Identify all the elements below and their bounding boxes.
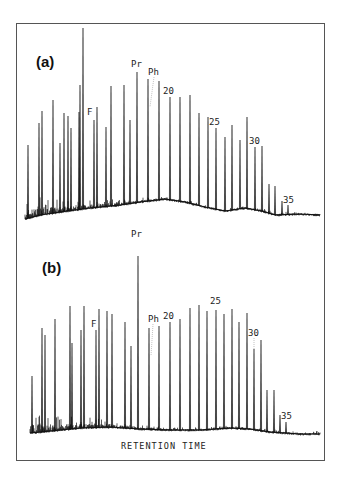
- ph-leader-a: [150, 77, 154, 107]
- panel-label-a: (a): [36, 53, 54, 70]
- peak-label-35-a: 35: [283, 195, 294, 205]
- peak-label-35-b: 35: [281, 411, 292, 421]
- chromatogram-trace-b: [30, 256, 320, 436]
- peak-label-ph-a: Ph: [148, 67, 159, 77]
- peak-label-ph-b: Ph: [148, 314, 159, 324]
- x-axis-label: RETENTION TIME: [121, 441, 207, 451]
- peak-label-25-b: 25: [210, 296, 221, 306]
- peak-label-f-a: F: [87, 107, 92, 117]
- peak-label-f-b: F: [91, 319, 96, 329]
- peak-label-pr-a: Pr: [131, 59, 142, 69]
- peak-label-20-b: 20: [163, 311, 174, 321]
- chromatogram-figure: (a) F Pr Ph 20 25 30 35 Pr (b) F Ph 20 2…: [0, 0, 340, 486]
- ph-leader-b: [151, 324, 153, 356]
- peak-label-30-a: 30: [249, 136, 260, 146]
- peak-label-25-a: 25: [209, 117, 220, 127]
- peak-label-pr-b: Pr: [131, 229, 142, 239]
- peak-label-20-a: 20: [163, 86, 174, 96]
- chromatogram-trace-a: [25, 28, 320, 220]
- peak-label-30-b: 30: [248, 328, 259, 338]
- panel-label-b: (b): [42, 259, 61, 276]
